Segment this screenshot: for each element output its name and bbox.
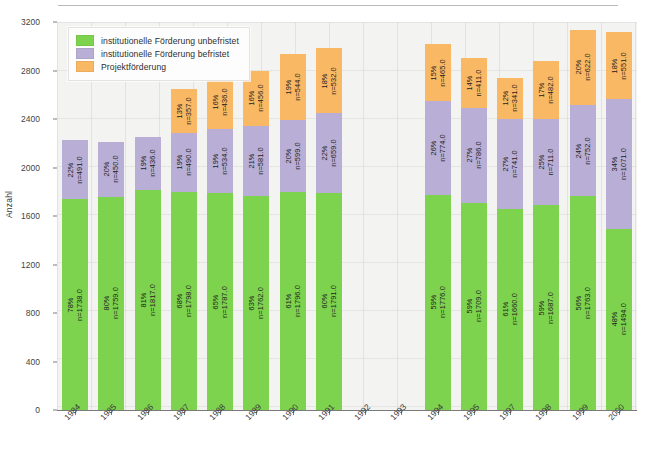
bar-stack[interactable]: 17%n=482.025%n=711.059%n=1687.0 xyxy=(533,61,559,410)
y-axis-tick-label: 3200 xyxy=(21,17,40,27)
bar-segment-count: n=532.0 xyxy=(329,67,338,95)
bar-stack[interactable]: 18%n=551.034%n=1071.048%n=1494.0 xyxy=(606,32,632,410)
bar-stack[interactable]: 20%n=622.024%n=752.056%n=1763.0 xyxy=(570,30,596,410)
bar-segment[interactable]: 34%n=1071.0 xyxy=(606,99,632,229)
bar-segment[interactable]: 17%n=482.0 xyxy=(533,61,559,119)
bar-segment-label: 15%n=465.0 xyxy=(429,59,447,87)
bar-segment-label: 16%n=436.0 xyxy=(211,88,229,116)
bar-segment-count: n=1660.0 xyxy=(510,293,519,325)
bar-segment-percent: 19% xyxy=(175,148,184,176)
bar-segment-count: n=752.0 xyxy=(583,137,592,165)
bar-segment[interactable]: 19%n=544.0 xyxy=(280,54,306,120)
bar-stack[interactable]: 22%n=491.078%n=1738.0 xyxy=(62,140,88,410)
bar-segment[interactable]: 19%n=490.0 xyxy=(171,133,197,192)
y-axis-tick-label: 800 xyxy=(26,308,40,318)
bar-segment-label: 59%n=1687.0 xyxy=(537,292,555,324)
bar-segment-percent: 19% xyxy=(211,147,220,175)
bar-segment[interactable]: 68%n=1798.0 xyxy=(171,192,197,410)
bar-segment[interactable]: 22%n=659.0 xyxy=(316,113,342,193)
bar-stack[interactable]: 13%n=357.019%n=490.068%n=1798.0 xyxy=(171,89,197,410)
y-axis-title: Anzahl xyxy=(4,191,14,218)
bar-segment-count: n=465.0 xyxy=(438,59,447,87)
bar-segment-count: n=341.0 xyxy=(510,84,519,112)
bar-stack[interactable]: 15%n=465.026%n=774.059%n=1776.0 xyxy=(425,44,451,410)
bar-segment-label: 81%n=1817.0 xyxy=(139,284,157,316)
bar-segment[interactable]: 59%n=1687.0 xyxy=(533,205,559,410)
bar-stack[interactable]: 16%n=436.019%n=534.065%n=1787.0 xyxy=(207,76,233,410)
bar-segment[interactable]: 15%n=465.0 xyxy=(425,44,451,100)
bar-segment[interactable]: 59%n=1776.0 xyxy=(425,195,451,410)
y-axis-tick-mark xyxy=(53,313,57,314)
bar-segment[interactable]: 16%n=436.0 xyxy=(207,76,233,129)
bar-segment[interactable]: 80%n=1759.0 xyxy=(98,197,124,410)
y-axis-tick-label: 2000 xyxy=(21,163,40,173)
bar-segment-label: 68%n=1798.0 xyxy=(175,285,193,317)
bar-segment[interactable]: 18%n=532.0 xyxy=(316,48,342,113)
bar-stack[interactable]: 20%n=450.080%n=1759.0 xyxy=(98,142,124,410)
bar-stack[interactable]: 18%n=532.022%n=659.060%n=1791.0 xyxy=(316,48,342,410)
bar-segment-percent: 13% xyxy=(175,97,184,125)
bar-stack[interactable]: 19%n=544.020%n=599.061%n=1796.0 xyxy=(280,54,306,410)
bar-segment-label: 61%n=1660.0 xyxy=(501,293,519,325)
bar-segment[interactable]: 22%n=491.0 xyxy=(62,140,88,200)
bar-stack[interactable]: 14%n=411.027%n=786.059%n=1709.0 xyxy=(461,58,487,410)
bar-segment[interactable]: 61%n=1796.0 xyxy=(280,192,306,410)
bar-segment[interactable]: 61%n=1660.0 xyxy=(497,209,523,410)
bar-segment[interactable]: 18%n=551.0 xyxy=(606,32,632,99)
bar-segment-count: n=411.0 xyxy=(474,69,483,96)
bar-segment[interactable]: 60%n=1791.0 xyxy=(316,193,342,410)
bar-segment[interactable]: 78%n=1738.0 xyxy=(62,199,88,410)
bar-segment-count: n=1687.0 xyxy=(546,292,555,324)
bar-segment[interactable]: 27%n=786.0 xyxy=(461,108,487,203)
bar-segment-count: n=1791.0 xyxy=(329,286,338,318)
bar-segment[interactable]: 20%n=450.0 xyxy=(98,142,124,197)
bar-segment[interactable]: 20%n=599.0 xyxy=(280,120,306,193)
bar-segment[interactable]: 24%n=752.0 xyxy=(570,105,596,196)
legend-item[interactable]: Projektförderung xyxy=(76,61,239,72)
bar-segment[interactable]: 19%n=436.0 xyxy=(135,137,161,190)
bar-segment[interactable]: 21%n=581.0 xyxy=(243,126,269,196)
bar-segment-label: 24%n=752.0 xyxy=(574,137,592,165)
bar-segment[interactable]: 19%n=534.0 xyxy=(207,129,233,194)
bar-segment-label: 20%n=450.0 xyxy=(102,156,120,184)
bar-segment-label: 80%n=1759.0 xyxy=(102,287,120,319)
legend-item[interactable]: institutionelle Förderung unbefristet xyxy=(76,35,239,46)
bar-segment[interactable]: 27%n=741.0 xyxy=(497,119,523,209)
bar-segment[interactable]: 56%n=1763.0 xyxy=(570,196,596,410)
bar-segment-percent: 60% xyxy=(320,286,329,318)
bar-segment-percent: 12% xyxy=(501,84,510,112)
bar-segment-percent: 59% xyxy=(429,286,438,318)
bar-segment-percent: 61% xyxy=(284,285,293,317)
y-axis-tick-mark xyxy=(53,119,57,120)
bar-segment[interactable]: 13%n=357.0 xyxy=(171,89,197,132)
bar-segment-label: 18%n=551.0 xyxy=(610,52,628,80)
bar-stack[interactable]: 19%n=436.081%n=1817.0 xyxy=(135,137,161,410)
legend-label: Projektförderung xyxy=(101,62,166,72)
bar-segment-label: 59%n=1776.0 xyxy=(429,286,447,318)
bar-segment-percent: 59% xyxy=(465,290,474,322)
bar-segment[interactable]: 20%n=622.0 xyxy=(570,30,596,105)
bar-segment[interactable]: 48%n=1494.0 xyxy=(606,229,632,410)
bar-segment[interactable]: 65%n=1787.0 xyxy=(207,193,233,410)
bar-segment[interactable]: 63%n=1762.0 xyxy=(243,196,269,410)
y-axis-tick-mark xyxy=(53,216,57,217)
bar-segment-label: 27%n=786.0 xyxy=(465,141,483,169)
bar-segment-label: 56%n=1763.0 xyxy=(574,287,592,319)
bar-segment[interactable]: 12%n=341.0 xyxy=(497,78,523,119)
bar-segment[interactable]: 26%n=774.0 xyxy=(425,101,451,195)
bar-segment[interactable]: 81%n=1817.0 xyxy=(135,190,161,410)
bar-segment[interactable]: 25%n=711.0 xyxy=(533,119,559,205)
bar-stack[interactable]: 12%n=341.027%n=741.061%n=1660.0 xyxy=(497,78,523,410)
bar-segment-count: n=491.0 xyxy=(75,156,84,184)
bar-segment-count: n=456.0 xyxy=(256,84,265,112)
bar-segment-percent: 48% xyxy=(610,304,619,336)
legend-item[interactable]: institutionelle Förderung befristet xyxy=(76,48,239,59)
bar-segment[interactable]: 14%n=411.0 xyxy=(461,58,487,108)
bar-segment-label: 17%n=482.0 xyxy=(537,76,555,104)
bar-segment-count: n=1817.0 xyxy=(148,284,157,316)
bar-stack[interactable]: 16%n=456.021%n=581.063%n=1762.0 xyxy=(243,71,269,410)
bar-segment[interactable]: 59%n=1709.0 xyxy=(461,203,487,410)
bar-segment-label: 18%n=532.0 xyxy=(320,67,338,95)
bar-segment-percent: 18% xyxy=(610,52,619,80)
legend-label: institutionelle Förderung befristet xyxy=(101,49,229,59)
